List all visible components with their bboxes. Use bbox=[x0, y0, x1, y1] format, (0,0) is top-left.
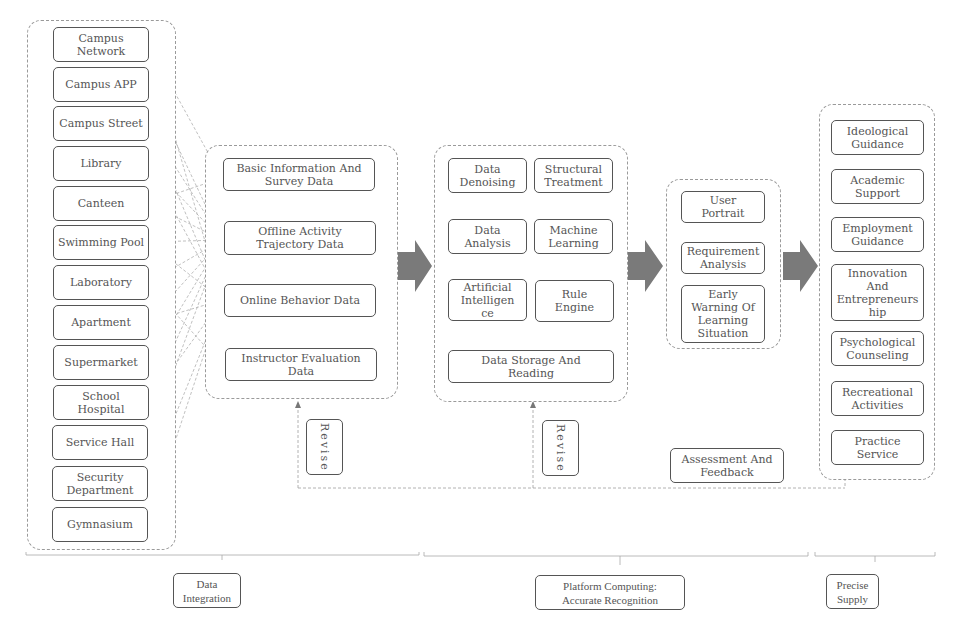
source-campus-network: Campus Network bbox=[53, 27, 149, 62]
data-type-online-behavior: Online Behavior Data bbox=[224, 284, 376, 317]
data-type-instructor-eval: Instructor Evaluation Data bbox=[225, 348, 377, 381]
service-recreational-activities: Recreational Activities bbox=[831, 381, 924, 416]
source-laboratory: Laboratory bbox=[53, 265, 149, 300]
stage-data-integration: Data Integration bbox=[173, 573, 241, 608]
proc-artificial-intelligence: Artificial Intelligen ce bbox=[448, 279, 527, 321]
service-ideological-guidance: Ideological Guidance bbox=[831, 120, 924, 155]
service-innovation-entrepreneurship: Innovation And Entrepreneurs hip bbox=[831, 264, 924, 321]
arrow-icon bbox=[628, 240, 663, 292]
proc-machine-learning: Machine Learning bbox=[534, 219, 613, 254]
arrow-icon bbox=[783, 240, 818, 292]
service-psychological-counseling: Psychological Counseling bbox=[831, 331, 924, 366]
recog-early-warning: Early Warning Of Learning Situation bbox=[681, 285, 765, 343]
source-canteen: Canteen bbox=[53, 186, 149, 221]
data-type-offline-activity: Offline Activity Trajectory Data bbox=[224, 221, 376, 255]
proc-rule-engine: Rule Engine bbox=[535, 280, 614, 322]
service-employment-guidance: Employment Guidance bbox=[831, 217, 924, 252]
service-academic-support: Academic Support bbox=[831, 169, 924, 204]
source-supermarket: Supermarket bbox=[53, 345, 149, 380]
service-practice-service: Practice Service bbox=[831, 430, 924, 465]
proc-structural-treatment: Structural Treatment bbox=[534, 158, 613, 193]
stage-precise-supply: Precise Supply bbox=[826, 574, 879, 609]
recog-requirement-analysis: Requirement Analysis bbox=[681, 242, 765, 274]
data-type-basic-info: Basic Information And Survey Data bbox=[223, 158, 375, 191]
proc-data-storage: Data Storage And Reading bbox=[448, 350, 614, 383]
source-school-hospital: School Hospital bbox=[53, 385, 149, 420]
source-security-department: Security Department bbox=[52, 466, 148, 501]
source-campus-app: Campus APP bbox=[53, 67, 149, 102]
source-library: Library bbox=[53, 146, 149, 181]
assessment-feedback-box: Assessment And Feedback bbox=[670, 448, 784, 483]
source-campus-street: Campus Street bbox=[53, 106, 149, 141]
revise-box-1: Revise bbox=[306, 419, 343, 475]
recog-user-portrait: User Portrait bbox=[681, 191, 765, 223]
proc-data-analysis: Data Analysis bbox=[448, 219, 527, 254]
source-apartment: Apartment bbox=[53, 305, 149, 340]
proc-data-denoising: Data Denoising bbox=[448, 158, 527, 193]
revise-label-2: Revise bbox=[554, 424, 567, 473]
source-service-hall: Service Hall bbox=[52, 425, 148, 460]
stage-platform-computing: Platform Computing: Accurate Recognition bbox=[535, 575, 685, 610]
source-gymnasium: Gymnasium bbox=[52, 507, 148, 542]
revise-label-1: Revise bbox=[318, 423, 331, 472]
revise-box-2: Revise bbox=[542, 420, 579, 476]
arrow-icon bbox=[398, 240, 432, 292]
source-swimming-pool: Swimming Pool bbox=[53, 225, 149, 260]
